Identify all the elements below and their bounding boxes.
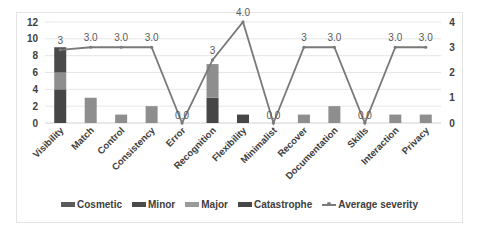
legend-item-average-severity: Average severity [322,199,418,210]
bar-segment-major [146,106,158,123]
line-marker [302,46,305,49]
line-marker [180,121,183,124]
data-label: 0.0 [267,110,281,121]
bar-segment-catastrophe [237,115,249,123]
legend-label: Average severity [338,199,418,210]
bar-segment-major [420,115,432,123]
legend-swatch-cosmetic [61,202,75,207]
legend-swatch-catastrophe [238,202,252,207]
y-axis-tick-label: 6 [32,67,38,78]
chart-legend: Cosmetic Minor Major Catastrophe Average… [0,199,479,210]
bar-segment-major [298,115,310,123]
data-label: 3 [57,35,63,46]
x-axis-category-label: Skills [345,125,370,150]
bar-segment-major [85,98,97,123]
line-marker [150,46,153,49]
chart-plot: 0246810120123433.03.03.00.034.00.033.00.… [0,0,479,225]
legend-swatch-minor [132,202,146,207]
line-marker [89,46,92,49]
data-label: 3.0 [327,32,341,43]
y-axis-tick-label: 0 [32,118,38,129]
line-marker [211,58,214,61]
y-axis-tick-label: 12 [27,17,39,28]
data-label: 3.0 [114,32,128,43]
y-axis-tick-label: 8 [32,50,38,61]
x-axis-category-label: Privacy [399,124,431,156]
line-marker [394,46,397,49]
legend-swatch-major [185,202,199,207]
legend-item-cosmetic: Cosmetic [61,199,122,210]
x-axis-category-label: Error [163,124,187,148]
legend-label: Minor [148,199,175,210]
bar-segment-catastrophe [207,98,219,123]
y-axis-tick-label: 2 [32,101,38,112]
y-axis-tick-label: 10 [27,33,39,44]
y2-axis-tick-label: 3 [449,42,455,53]
line-marker [363,121,366,124]
legend-label: Cosmetic [77,199,122,210]
legend-item-minor: Minor [132,199,175,210]
bar-segment-major [328,106,340,123]
data-label: 3.0 [145,32,159,43]
x-axis-category-label: Documentation [283,124,340,181]
y-axis-tick-label: 4 [32,84,38,95]
legend-item-major: Major [185,199,228,210]
line-marker [241,20,244,23]
data-label: 4.0 [236,7,250,18]
data-label: 3.0 [388,32,402,43]
data-label: 0.0 [358,110,372,121]
legend-label: Major [201,199,228,210]
y2-axis-tick-label: 1 [449,92,455,103]
data-label: 3 [301,32,307,43]
bar-segment-major [389,115,401,123]
data-label: 3.0 [84,32,98,43]
x-axis-category-label: Visibility [30,124,66,160]
line-marker [59,48,62,51]
line-marker [424,46,427,49]
x-axis-category-label: Match [69,125,96,152]
y2-axis-tick-label: 0 [449,118,455,129]
data-label: 3.0 [419,32,433,43]
y2-axis-tick-label: 4 [449,17,455,28]
line-marker [120,46,123,49]
legend-item-catastrophe: Catastrophe [238,199,312,210]
bar-segment-major [115,115,127,123]
y2-axis-tick-label: 2 [449,67,455,78]
data-label: 0.0 [175,110,189,121]
bar-segment-catastrophe [54,89,66,123]
bar-segment-major [54,73,66,90]
data-label: 3 [210,45,216,56]
legend-line-marker-icon [322,204,336,206]
line-marker [272,121,275,124]
legend-label: Catastrophe [254,199,312,210]
line-marker [333,46,336,49]
